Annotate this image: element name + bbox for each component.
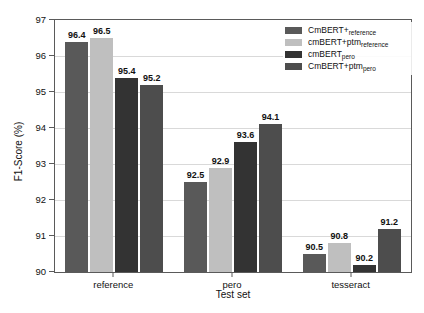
bar-value-label: 91.2 xyxy=(369,217,409,227)
bar xyxy=(234,142,257,272)
x-tick-mark xyxy=(350,273,351,277)
bar-chart-figure: 9091929394959697 F1-Score (%) 96.496.595… xyxy=(0,0,424,313)
legend-swatch xyxy=(285,51,302,58)
x-tick-mark xyxy=(113,273,114,277)
bar-value-label: 94.1 xyxy=(251,112,291,122)
bar xyxy=(259,124,282,272)
bar xyxy=(115,78,138,272)
bar-value-label: 96.5 xyxy=(82,26,122,36)
x-axis-label: Test set xyxy=(54,289,412,300)
legend-label: cmBERTpero xyxy=(308,50,355,59)
legend-swatch xyxy=(285,63,302,70)
bar-value-label: 90.8 xyxy=(319,231,359,241)
legend-swatch xyxy=(285,39,302,46)
bar xyxy=(303,254,326,272)
legend-swatch xyxy=(285,27,302,34)
legend-label: CmBERT+reference xyxy=(308,26,376,35)
legend-item: CmBERT+reference xyxy=(285,24,412,36)
legend-item: cmBERT+ptmreference xyxy=(285,36,412,48)
bar xyxy=(140,85,163,272)
bar xyxy=(184,182,207,272)
chart-legend: CmBERT+referencecmBERT+ptmreferencecmBER… xyxy=(283,22,414,75)
legend-item: cmBERTpero xyxy=(285,48,412,60)
y-tick-label: 97 xyxy=(6,14,46,25)
y-axis-label: F1-Score (%) xyxy=(13,82,24,222)
x-tick-mark xyxy=(232,273,233,277)
bar xyxy=(65,42,88,272)
y-tick-label: 91 xyxy=(6,230,46,241)
legend-label: cmBERT+ptmreference xyxy=(308,38,388,47)
legend-label: CmBERT+ptmpero xyxy=(308,62,376,71)
y-tick-label: 96 xyxy=(6,50,46,61)
bar-value-label: 95.2 xyxy=(132,73,172,83)
bar xyxy=(353,265,376,272)
legend-item: CmBERT+ptmpero xyxy=(285,60,412,72)
bar xyxy=(378,229,401,272)
y-tick-label: 90 xyxy=(6,266,46,277)
bar xyxy=(209,168,232,272)
